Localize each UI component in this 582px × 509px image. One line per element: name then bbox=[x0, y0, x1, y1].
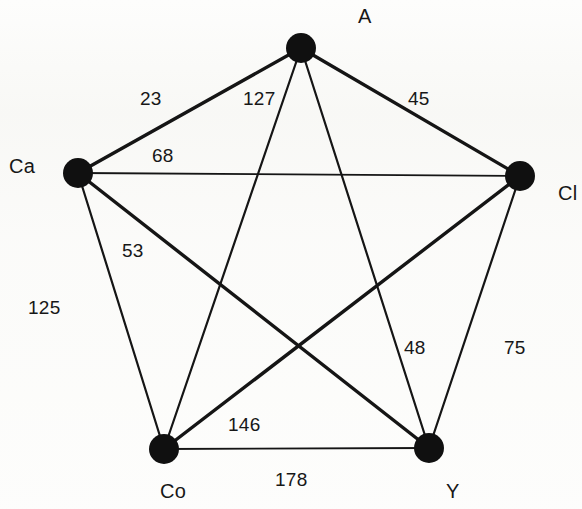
graph-node[interactable] bbox=[414, 433, 444, 463]
node-label-a: A bbox=[358, 5, 372, 28]
edge-weight-label: 45 bbox=[408, 88, 430, 110]
edge-weight-label: 75 bbox=[504, 337, 526, 359]
graph-edge bbox=[78, 173, 520, 176]
node-label-ca: Ca bbox=[9, 155, 35, 178]
figure-canvas: ) 231274568531254875146178ACaClCoY bbox=[0, 0, 582, 509]
edge-weight-label: 48 bbox=[404, 337, 426, 359]
graph-edge bbox=[164, 448, 429, 449]
graph-node[interactable] bbox=[63, 158, 93, 188]
edge-weight-label: 23 bbox=[140, 88, 162, 110]
graph-canvas bbox=[0, 0, 582, 509]
graph-edge bbox=[78, 173, 164, 449]
node-label-co: Co bbox=[160, 480, 186, 503]
graph-edge bbox=[78, 173, 429, 448]
edge-weight-label: 68 bbox=[152, 145, 174, 167]
edge-weight-label: 125 bbox=[28, 297, 61, 319]
edge-weight-label: 146 bbox=[228, 414, 261, 436]
graph-node[interactable] bbox=[286, 33, 316, 63]
graph-edge bbox=[164, 48, 301, 449]
node-label-cl: Cl bbox=[558, 182, 577, 205]
graph-edge bbox=[301, 48, 520, 176]
edge-weight-label: 127 bbox=[243, 88, 276, 110]
edge-weight-label: 53 bbox=[122, 240, 144, 262]
graph-node[interactable] bbox=[505, 161, 535, 191]
graph-edge bbox=[429, 176, 520, 448]
graph-edge bbox=[164, 176, 520, 449]
graph-edge bbox=[78, 48, 301, 173]
node-label-y: Y bbox=[446, 480, 460, 503]
edge-weight-label: 178 bbox=[275, 469, 308, 491]
graph-node[interactable] bbox=[149, 434, 179, 464]
